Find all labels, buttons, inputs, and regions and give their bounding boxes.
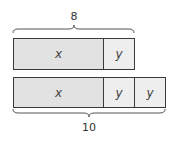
braces	[0, 0, 175, 141]
top-bar: x y	[13, 38, 135, 70]
top-bar-x-segment: x	[13, 38, 104, 70]
top-bar-y-segment: y	[104, 38, 135, 70]
bottom-brace	[13, 109, 165, 117]
tape-diagram: 8 x y x y y 10	[0, 0, 175, 141]
bottom-bar: x y y	[13, 77, 166, 108]
bottom-bar-x-segment: x	[13, 77, 104, 108]
bottom-total-label: 10	[76, 121, 102, 134]
top-brace	[13, 25, 134, 33]
top-total-label: 8	[64, 10, 84, 23]
bottom-bar-y-segment-1: y	[104, 77, 135, 108]
bottom-bar-y-segment-2: y	[135, 77, 166, 108]
